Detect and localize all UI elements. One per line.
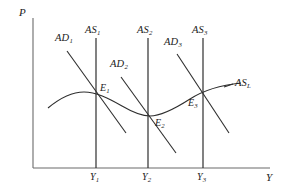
y-axis-label: P — [19, 7, 26, 18]
ad1-label-text: AD — [55, 32, 69, 43]
x-tick-label-1: Y1 — [90, 172, 99, 182]
x-tick-label-3: Y3 — [197, 172, 206, 182]
ad1-label: AD1 — [55, 33, 73, 44]
as1-label-sub: 1 — [97, 29, 100, 36]
as2-label-text: AS — [137, 24, 149, 35]
x-axis-label: Y — [266, 172, 272, 183]
as1-label: AS1 — [85, 25, 100, 36]
y1-label-text: Y — [90, 171, 96, 182]
y2-label-text: Y — [142, 171, 148, 182]
ad3-label: AD3 — [164, 37, 182, 48]
as3-label-text: AS — [192, 24, 204, 35]
asl-label: ASL — [235, 78, 251, 89]
e2-label-sub: 2 — [161, 122, 164, 129]
diagram-canvas: P Y AD1 AD2 AD3 AS1 AS2 AS3 ASL E1 E2 E3… — [0, 0, 288, 196]
e3-label-sub: 3 — [194, 102, 197, 109]
e2-label: E2 — [155, 118, 165, 128]
asl-label-sub: L — [247, 82, 251, 89]
y1-label-sub: 1 — [96, 176, 99, 183]
y2-label-sub: 2 — [148, 176, 151, 183]
e1-label-sub: 1 — [106, 87, 109, 94]
asl-label-text: AS — [235, 77, 247, 88]
y3-label-sub: 3 — [203, 176, 206, 183]
as2-label-sub: 2 — [149, 29, 152, 36]
ad3-label-sub: 3 — [178, 41, 181, 48]
as3-label-sub: 3 — [204, 29, 207, 36]
y3-label-text: Y — [197, 171, 203, 182]
ad2-label-text: AD — [110, 58, 124, 69]
ad2-label: AD2 — [110, 59, 128, 70]
as2-label: AS2 — [137, 25, 152, 36]
ad3-label-text: AD — [164, 36, 178, 47]
asl-curve — [48, 83, 241, 116]
e1-label: E1 — [100, 83, 110, 93]
e3-label: E3 — [188, 98, 198, 108]
ad2-label-sub: 2 — [124, 63, 127, 70]
x-tick-label-2: Y2 — [142, 172, 151, 182]
as1-label-text: AS — [85, 24, 97, 35]
ad1-label-sub: 1 — [69, 37, 72, 44]
as3-label: AS3 — [192, 25, 207, 36]
